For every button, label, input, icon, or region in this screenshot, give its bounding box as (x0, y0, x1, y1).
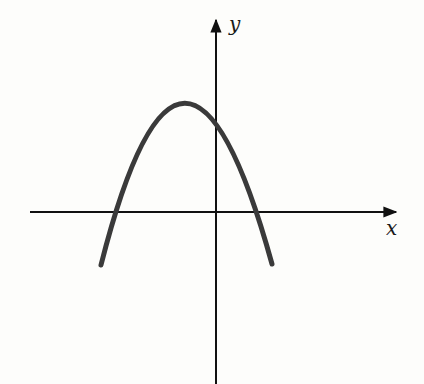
parabola-curve (101, 103, 272, 265)
x-axis-label: x (386, 218, 397, 238)
parabola-graph (0, 0, 424, 384)
y-axis-label: y (229, 14, 240, 34)
